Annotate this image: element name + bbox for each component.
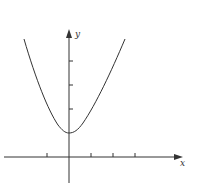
chart: y x bbox=[0, 0, 197, 193]
y-axis-arrow-icon bbox=[66, 29, 72, 38]
x-axis-label: x bbox=[180, 158, 185, 168]
y-axis-label: y bbox=[74, 29, 81, 39]
y-ticks bbox=[69, 61, 73, 109]
x-ticks bbox=[47, 153, 135, 157]
curve-series bbox=[24, 39, 125, 133]
